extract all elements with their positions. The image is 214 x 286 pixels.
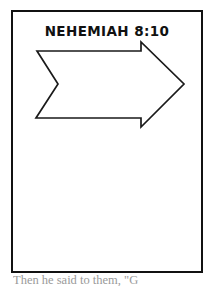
worksheet-frame: NEHEMIAH 8:10 xyxy=(11,10,203,273)
arrow-illustration xyxy=(13,12,205,275)
page-title: NEHEMIAH 8:10 xyxy=(13,23,201,39)
caption: Then he said to them, "G xyxy=(13,274,203,286)
arrow-svg xyxy=(13,12,205,275)
worksheet-page: NEHEMIAH 8:10 Then he said to them, "G xyxy=(0,0,214,286)
caption-text: Then he said to them, "G xyxy=(13,274,203,286)
right-arrow-icon xyxy=(36,42,184,127)
